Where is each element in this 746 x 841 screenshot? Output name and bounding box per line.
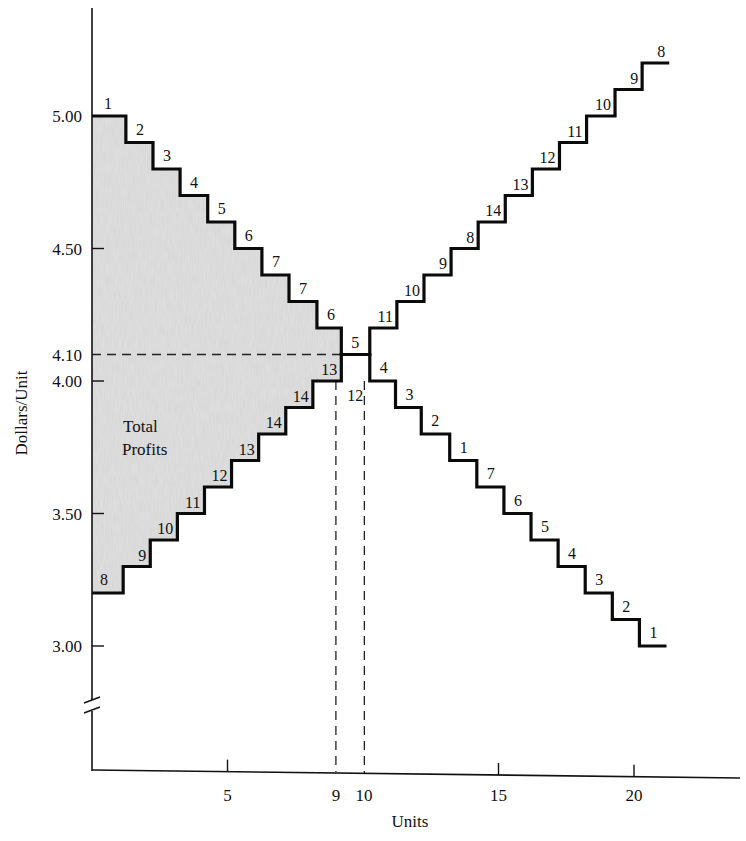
step-label: 14 [293,388,309,405]
step-label: 5 [218,200,226,217]
step-label: 5 [351,334,359,351]
step-label: 9 [138,547,146,564]
profit-label-line2: Profits [122,440,167,459]
step-label: 10 [157,520,173,537]
step-label: 8 [657,43,665,60]
step-label: 12 [539,149,555,166]
y-tick-label: 5.00 [52,107,82,126]
step-label: 7 [272,253,280,270]
step-label: 4 [380,359,388,376]
step-label: 2 [622,598,630,615]
step-label: 1 [649,624,657,641]
y-tick-label: 4.10 [52,346,82,365]
x-axis-title: Units [392,812,429,831]
step-label: 11 [567,123,582,140]
step-label: 8 [100,571,108,588]
step-label: 8 [466,229,474,246]
step-label: 3 [406,386,414,403]
y-tick-label: 3.50 [52,505,82,524]
step-label: 3 [163,147,171,164]
x-tick-label: 10 [356,786,373,805]
step-label: 7 [487,465,495,482]
step-label: 4 [190,174,198,191]
y-axis-title: Dollars/Unit [12,370,31,455]
step-label: 9 [630,70,638,87]
step-supply-demand-chart: 5.004.504.104.003.503.0059101520 1234567… [0,0,746,841]
step-label: 1 [104,95,112,112]
step-label: 6 [245,227,253,244]
step-label: 6 [327,306,335,323]
step-label: 13 [321,361,337,378]
step-label: 14 [485,202,501,219]
step-label: 3 [595,571,603,588]
step-label: 11 [185,494,200,511]
x-tick-label: 15 [490,786,507,805]
step-label: 13 [239,441,255,458]
step-label: 10 [595,96,611,113]
y-tick-label: 4.50 [52,240,82,259]
step-label: 2 [431,412,439,429]
step-label: 4 [568,545,576,562]
step-label: 13 [512,176,528,193]
x-tick-label: 20 [626,786,643,805]
x-tick-label: 5 [223,786,232,805]
step-label: 11 [377,308,392,325]
x-tick-label: 9 [332,786,341,805]
step-label: 6 [514,492,522,509]
step-label: 9 [439,255,447,272]
x-axis-line [92,770,740,778]
step-label: 5 [541,518,549,535]
step-label: 12 [347,387,363,404]
y-tick-label: 4.00 [52,372,82,391]
step-label: 1 [460,439,468,456]
step-label: 7 [299,280,307,297]
step-label: 2 [136,121,144,138]
step-label: 12 [212,467,228,484]
step-label: 10 [404,282,420,299]
step-label: 14 [266,414,282,431]
y-tick-label: 3.00 [52,637,82,656]
profit-label-line1: Total [123,417,158,436]
